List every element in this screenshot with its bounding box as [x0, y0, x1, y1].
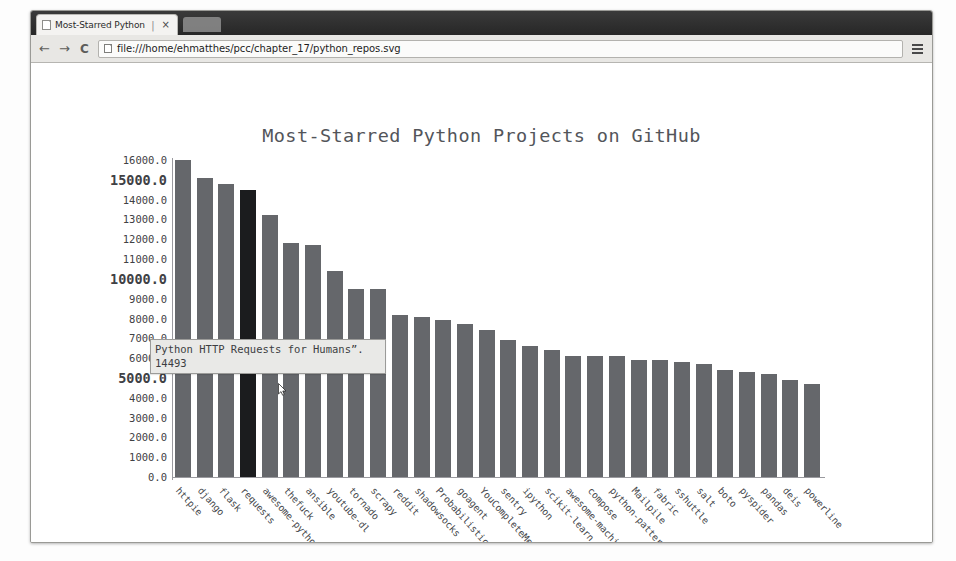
y-tick-label: 2000.0: [129, 431, 167, 443]
menu-bar-2: [912, 48, 923, 50]
address-bar-url: file:///home/ehmatthes/pcc/chapter_17/py…: [117, 43, 401, 54]
x-axis-line: [172, 477, 825, 478]
bar[interactable]: [479, 330, 495, 477]
x-tick-label: powerline: [803, 485, 845, 530]
y-tick-label: 8000.0: [129, 313, 167, 325]
page-file-icon: [104, 44, 112, 53]
bar[interactable]: [782, 380, 798, 477]
y-tick-label: 16000.0: [123, 154, 167, 166]
bar[interactable]: [804, 384, 820, 477]
bar-tooltip: Python HTTP Requests for Humans”. 14493: [150, 339, 386, 374]
y-tick-label: 11000.0: [123, 253, 167, 265]
y-tick-label: 13000.0: [123, 213, 167, 225]
bar[interactable]: [652, 360, 668, 477]
back-icon[interactable]: ←: [38, 42, 51, 55]
bar[interactable]: [544, 350, 560, 477]
hamburger-menu-icon[interactable]: [910, 41, 925, 57]
y-axis-tick-labels: 16000.015000.014000.013000.012000.011000…: [31, 63, 167, 542]
tab-strip: Most-Starred Python | ×: [31, 11, 932, 35]
y-tick-label: 0.0: [148, 471, 167, 483]
bar[interactable]: [197, 178, 213, 477]
bar[interactable]: [500, 340, 516, 477]
y-tick-label: 10000.0: [110, 271, 167, 287]
y-tick-label: 9000.0: [129, 293, 167, 305]
reload-icon[interactable]: C: [78, 43, 91, 55]
bar[interactable]: [565, 356, 581, 477]
bar[interactable]: [674, 362, 690, 477]
y-tick-label: 1000.0: [129, 451, 167, 463]
bar[interactable]: [631, 360, 647, 477]
bar[interactable]: [717, 370, 733, 477]
address-bar[interactable]: file:///home/ehmatthes/pcc/chapter_17/py…: [98, 40, 903, 58]
browser-tab[interactable]: Most-Starred Python | ×: [36, 14, 178, 35]
bar[interactable]: [696, 364, 712, 477]
bar[interactable]: [240, 190, 256, 477]
bar[interactable]: [609, 356, 625, 477]
bar[interactable]: [587, 356, 603, 477]
bar[interactable]: [175, 160, 191, 477]
y-tick-label: 4000.0: [129, 392, 167, 404]
browser-window: Most-Starred Python | × ← → C file:///ho…: [30, 10, 933, 543]
y-tick-label: 14000.0: [123, 194, 167, 206]
menu-bar-3: [912, 52, 923, 54]
x-axis-tick-labels: httpiedjangoflaskrequestsawesome-pythont…: [172, 481, 832, 542]
bar[interactable]: [392, 315, 408, 477]
tooltip-label: Python HTTP Requests for Humans”.: [155, 342, 381, 356]
forward-icon[interactable]: →: [58, 42, 71, 55]
bar[interactable]: [348, 289, 364, 477]
bar[interactable]: [761, 374, 777, 477]
bar[interactable]: [414, 317, 430, 477]
tab-title: Most-Starred Python: [55, 20, 147, 30]
tab-close-icon[interactable]: ×: [160, 20, 172, 30]
page-viewport: Most-Starred Python Projects on GitHub 1…: [31, 63, 932, 542]
bar[interactable]: [370, 289, 386, 477]
screenshot-page: Most-Starred Python | × ← → C file:///ho…: [0, 0, 956, 561]
tab-title-separator: |: [151, 20, 155, 31]
menu-bar-1: [912, 44, 923, 46]
plot-area: [172, 160, 823, 477]
new-tab-button[interactable]: [183, 17, 221, 32]
bar[interactable]: [739, 372, 755, 477]
x-tick-label: boto: [716, 485, 739, 509]
bar[interactable]: [435, 320, 451, 477]
y-tick-label: 12000.0: [123, 233, 167, 245]
y-tick-label: 15000.0: [110, 172, 167, 188]
tab-favicon-icon: [42, 20, 51, 30]
bar[interactable]: [218, 184, 234, 477]
tooltip-value: 14493: [155, 356, 381, 370]
y-tick-label: 3000.0: [129, 412, 167, 424]
browser-toolbar: ← → C file:///home/ehmatthes/pcc/chapter…: [31, 35, 932, 63]
bar[interactable]: [522, 346, 538, 477]
bar[interactable]: [457, 324, 473, 477]
